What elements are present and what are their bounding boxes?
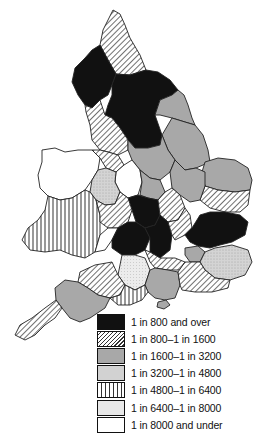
legend-item-c5: 1 in 4800–1 in 6400 bbox=[97, 382, 266, 399]
legend-label: 1 in 3200–1 in 4800 bbox=[131, 367, 221, 379]
legend-swatch-light-grey bbox=[97, 365, 125, 381]
legend-swatch-diagonal-hatch bbox=[97, 331, 125, 347]
legend-item-c1: 1 in 800 and over bbox=[97, 313, 266, 330]
region-cornwall bbox=[15, 300, 62, 340]
region-norfolk bbox=[202, 158, 252, 192]
legend-label: 1 in 800 and over bbox=[131, 316, 210, 328]
legend-item-c7: 1 in 8000 and under bbox=[97, 416, 266, 433]
legend-item-c2: 1 in 800–1 in 1600 bbox=[97, 330, 266, 347]
region-essex bbox=[185, 212, 248, 248]
legend-swatch-solid-black bbox=[97, 314, 125, 330]
legend-swatch-white bbox=[97, 417, 125, 433]
legend-label: 1 in 6400–1 in 8000 bbox=[131, 402, 221, 414]
region-isle-of-wight bbox=[157, 300, 170, 309]
legend-item-c3: 1 in 1600–1 in 3200 bbox=[97, 347, 266, 364]
legend-item-c4: 1 in 3200–1 in 4800 bbox=[97, 365, 266, 382]
legend-label: 1 in 1600–1 in 3200 bbox=[131, 350, 221, 362]
legend-swatch-vertical-lines bbox=[97, 382, 125, 398]
map-legend: 1 in 800 and over 1 in 800–1 in 1600 1 i… bbox=[97, 313, 266, 433]
legend-label: 1 in 8000 and under bbox=[131, 419, 223, 431]
region-south-wales bbox=[22, 190, 100, 258]
legend-label: 1 in 800–1 in 1600 bbox=[131, 333, 216, 345]
legend-item-c6: 1 in 6400–1 in 8000 bbox=[97, 399, 266, 416]
legend-label: 1 in 4800–1 in 6400 bbox=[131, 384, 221, 396]
legend-swatch-mid-grey bbox=[97, 348, 125, 364]
region-hampshire bbox=[145, 268, 180, 300]
legend-swatch-fine-stipple bbox=[97, 400, 125, 416]
